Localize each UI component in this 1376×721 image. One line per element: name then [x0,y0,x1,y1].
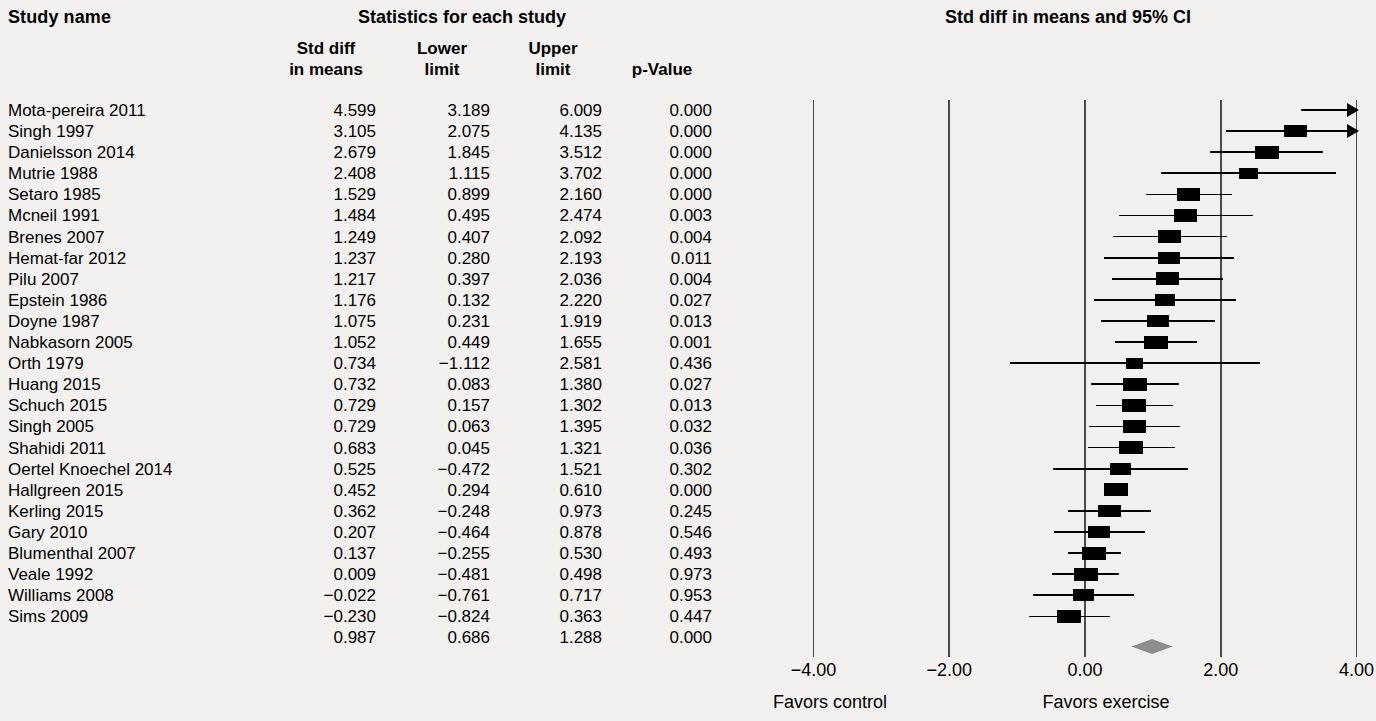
column-header-std-diff-line1: Std diff [276,38,376,59]
axis-tick-2 [1084,640,1086,657]
cell-lower-limit: 0.045 [374,438,490,459]
effect-size-marker [1155,294,1176,306]
table-row: Hemat-far 20121.2370.2802.1930.011 [0,248,760,269]
ci-right-arrow [1347,103,1359,117]
cell-std-diff: 1.249 [256,227,376,248]
plot-canvas: −4.00−2.000.002.004.00 [760,0,1376,721]
cell-study-name: Doyne 1987 [8,311,100,332]
gridline-neg2 [948,100,950,640]
cell-std-diff: 0.729 [256,416,376,437]
cell-study-name: Schuch 2015 [8,395,107,416]
effect-size-marker [1082,547,1106,560]
table-row: Singh 19973.1052.0754.1350.000 [0,121,760,142]
cell-std-diff: 2.408 [256,163,376,184]
effect-size-marker [1284,125,1307,138]
cell-p-value: 0.000 [596,184,712,205]
table-row: Orth 19790.734−1.1122.5810.436 [0,353,760,374]
axis-tick-label-4: 4.00 [1312,660,1376,681]
cell-p-value: 0.011 [596,248,712,269]
cell-upper-limit: 0.878 [486,522,602,543]
cell-lower-limit: 0.899 [374,184,490,205]
ci-right-arrow [1347,124,1359,138]
cell-study-name: Hallgreen 2015 [8,480,123,501]
table-row: Huang 20150.7320.0831.3800.027 [0,374,760,395]
effect-size-marker [1098,505,1121,518]
cell-study-name: Epstein 1986 [8,290,107,311]
table-row: Doyne 19871.0750.2311.9190.013 [0,311,760,332]
column-header-upper-limit: Upper limit [505,38,601,80]
effect-size-marker [1174,209,1197,222]
cell-lower-limit: −0.464 [374,522,490,543]
cell-upper-limit: 1.919 [486,311,602,332]
cell-std-diff: 1.217 [256,269,376,290]
axis-tick-label-2: 0.00 [1040,660,1130,681]
cell-upper-limit: 4.135 [486,121,602,142]
cell-study-name: Kerling 2015 [8,501,103,522]
cell-study-name: Mutrie 1988 [8,163,98,184]
cell-lower-limit: −0.255 [374,543,490,564]
effect-size-marker [1074,568,1098,581]
cell-study-name: Williams 2008 [8,585,114,606]
cell-lower-limit: 0.157 [374,395,490,416]
statistics-table: Study name Statistics for each study Std… [0,0,760,721]
cell-lower-limit: −0.481 [374,564,490,585]
cell-upper-limit: 2.220 [486,290,602,311]
cell-upper-limit: 2.036 [486,269,602,290]
table-row: Blumenthal 20070.137−0.2550.5300.493 [0,543,760,564]
effect-size-marker [1255,146,1279,159]
cell-std-diff: 0.452 [256,480,376,501]
table-row: Brenes 20071.2490.4072.0920.004 [0,227,760,248]
table-row: Gary 20100.207−0.4640.8780.546 [0,522,760,543]
cell-p-value: 0.973 [596,564,712,585]
cell-study-name: Setaro 1985 [8,184,101,205]
cell-study-name: Blumenthal 2007 [8,543,136,564]
table-body: Mota-pereira 20114.5993.1896.0090.000Sin… [0,100,760,648]
effect-size-marker [1144,336,1168,349]
column-header-std-diff-in-means: Std diff in means [276,38,376,80]
cell-p-value: 0.000 [596,142,712,163]
axis-tick-1 [948,640,950,657]
cell-p-value: 0.000 [596,100,712,121]
cell-p-value: 0.953 [596,585,712,606]
column-header-lower-line2: limit [394,59,490,80]
cell-upper-limit: 1.302 [486,395,602,416]
cell-upper-limit: 0.973 [486,501,602,522]
table-row: Hallgreen 20150.4520.2940.6100.000 [0,480,760,501]
cell-lower-limit: 0.231 [374,311,490,332]
cell-lower-limit: 0.397 [374,269,490,290]
effect-size-marker [1158,252,1179,264]
cell-study-name: Veale 1992 [8,564,93,585]
cell-p-value: 0.013 [596,311,712,332]
cell-lower-limit: −0.248 [374,501,490,522]
cell-std-diff: 0.732 [256,374,376,395]
axis-tick-label-0: −4.00 [769,660,859,681]
cell-study-name: Hemat-far 2012 [8,248,126,269]
effect-size-marker [1110,463,1131,475]
effect-size-marker [1057,610,1081,623]
table-row: Singh 20050.7290.0631.3950.032 [0,416,760,437]
cell-study-name: Shahidi 2011 [8,438,106,459]
table-row: Pilu 20071.2170.3972.0360.004 [0,269,760,290]
cell-upper-limit: 0.530 [486,543,602,564]
cell-p-value: 0.003 [596,205,712,226]
cell-study-name: Mcneil 1991 [8,205,100,226]
cell-lower-limit: 0.407 [374,227,490,248]
cell-p-value: 0.245 [596,501,712,522]
cell-lower-limit: 1.115 [374,163,490,184]
column-header-upper-line2: limit [505,59,601,80]
cell-p-value: 0.447 [596,606,712,627]
cell-p-value: 0.436 [596,353,712,374]
cell-std-diff: 3.105 [256,121,376,142]
cell-upper-limit: 0.363 [486,606,602,627]
favors-control-label: Favors control [720,692,940,713]
cell-upper-limit: 1.321 [486,438,602,459]
table-row: Shahidi 20110.6830.0451.3210.036 [0,438,760,459]
cell-lower-limit: 3.189 [374,100,490,121]
axis-tick-label-3: 2.00 [1176,660,1266,681]
cell-p-value: 0.036 [596,438,712,459]
cell-std-diff: 2.679 [256,142,376,163]
cell-std-diff: −0.230 [256,606,376,627]
cell-p-value: 0.013 [596,395,712,416]
cell-std-diff: 0.683 [256,438,376,459]
effect-size-marker [1123,378,1147,391]
